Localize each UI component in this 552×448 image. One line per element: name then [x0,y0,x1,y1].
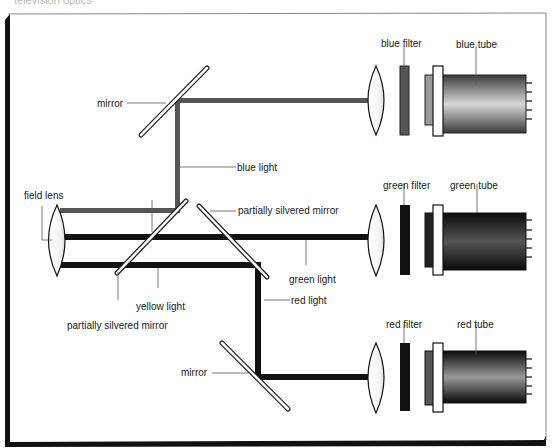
light-beams [60,98,368,380]
label-green-filter: green filter [383,180,431,191]
green-beam [62,234,368,240]
label-partially-silvered-mirror-left: partially silvered mirror [67,320,168,331]
label-red-filter: red filter [386,319,423,330]
red-beam-vertical [255,262,261,380]
red-beam-horizontal [255,374,368,380]
label-red-light: red light [291,295,327,306]
red-tube [425,343,532,412]
label-field-lens: field lens [24,190,63,201]
label-blue-tube: blue tube [456,39,498,50]
label-green-tube: green tube [450,180,498,191]
label-blue-light: blue light [237,162,277,173]
yellow-beam [60,262,259,268]
green-lens [368,205,384,276]
label-green-light: green light [289,274,336,285]
label-mirror-top: mirror [97,98,124,109]
label-partially-silvered-mirror-right: partially silvered mirror [238,205,339,216]
red-lens [368,343,384,413]
lenses [368,66,384,413]
red-filter [400,343,410,411]
beam-top [60,208,180,213]
green-tube [425,205,532,275]
optics-diagram: mirror blue light field lens partially s… [0,0,552,448]
label-yellow-light: yellow light [136,301,185,312]
blue-tube [425,66,532,136]
label-blue-filter: blue filter [381,38,422,49]
blue-beam-horizontal [175,98,368,103]
label-red-tube: red tube [457,319,494,330]
blue-filter [400,66,409,135]
filters [400,66,410,411]
green-filter [400,205,410,275]
label-mirror-bottom: mirror [181,367,208,378]
blue-beam-vertical [175,99,180,212]
blue-lens [368,66,384,135]
